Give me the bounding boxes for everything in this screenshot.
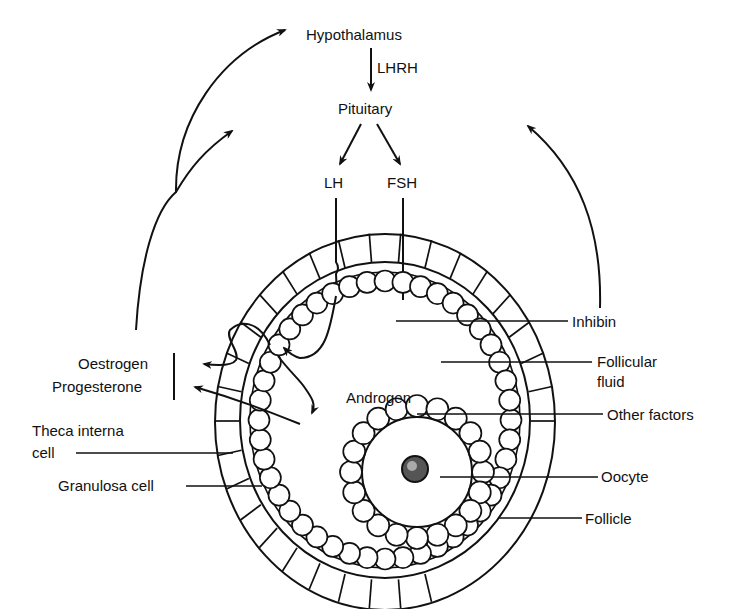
theca-cell-divider xyxy=(309,563,320,589)
cumulus-cell xyxy=(406,527,428,549)
granulosa-cell xyxy=(501,410,522,431)
theca-cell-divider xyxy=(369,579,371,608)
lhrh-label: LHRH xyxy=(377,59,418,76)
theca-cell-divider xyxy=(338,240,345,268)
follicle-endocrine-diagram: Hypothalamus LHRH Pituitary LH FSH Oestr… xyxy=(0,0,746,609)
theca-cell-divider xyxy=(283,271,297,294)
feedback-arrow-pituitary xyxy=(176,131,232,192)
theca-cell-divider xyxy=(529,386,553,391)
other-factors-label: Other factors xyxy=(607,406,694,423)
theca-cell-divider xyxy=(226,478,248,488)
fsh-arrow xyxy=(377,124,400,164)
theca-cell-divider xyxy=(240,505,260,520)
progesterone-label: Progesterone xyxy=(52,378,142,395)
theca-cell-divider xyxy=(369,234,371,263)
androgen-arrow xyxy=(278,356,314,413)
cumulus-cell xyxy=(340,461,362,483)
hypothalamus-label: Hypothalamus xyxy=(306,26,402,43)
theca-cell-divider xyxy=(259,528,277,548)
progesterone-arrow xyxy=(195,387,300,424)
theca-label-line2: cell xyxy=(32,444,55,461)
oocyte-label: Oocyte xyxy=(601,468,649,485)
theca-cell-divider xyxy=(283,548,297,571)
theca-cell-divider xyxy=(226,353,248,363)
nucleus-texture xyxy=(407,461,417,471)
fsh-label: FSH xyxy=(387,174,417,191)
granulosa-cell xyxy=(249,410,270,431)
theca-cell-divider xyxy=(425,574,432,602)
diagram-svg: Hypothalamus LHRH Pituitary LH FSH Oestr… xyxy=(0,0,746,609)
theca-cell-divider xyxy=(473,271,487,294)
cumulus-cell xyxy=(469,441,491,463)
theca-cell-divider xyxy=(425,240,432,268)
follicular-label-line2: fluid xyxy=(597,373,625,390)
cumulus-cell xyxy=(426,524,448,546)
theca-cell-divider xyxy=(398,579,400,608)
granulosa-cell xyxy=(499,429,520,450)
theca-cell-divider xyxy=(218,386,242,391)
granulosa-cell xyxy=(499,390,520,411)
theca-cell-divider xyxy=(398,234,400,263)
theca-label-line1: Theca interna xyxy=(32,422,124,439)
theca-cell-divider xyxy=(509,322,529,337)
cumulus-cell xyxy=(472,461,494,483)
inhibin-feedback-arrow xyxy=(528,126,600,308)
theca-cell-divider xyxy=(450,253,461,279)
theca-cell-divider xyxy=(338,574,345,602)
follicle-label: Follicle xyxy=(585,510,632,527)
granulosa-cell xyxy=(495,370,516,391)
theca-cell-divider xyxy=(309,253,320,279)
pituitary-label: Pituitary xyxy=(338,100,393,117)
follicle xyxy=(215,234,555,609)
granulosa-cell xyxy=(254,449,275,470)
feedback-arrow-hypothalamus xyxy=(136,30,285,330)
cumulus-cell xyxy=(343,481,365,503)
oestrogen-label: Oestrogen xyxy=(78,355,148,372)
granulosa-cell xyxy=(250,429,271,450)
granulosa-label: Granulosa cell xyxy=(58,477,154,494)
theca-cell-divider xyxy=(493,294,511,314)
follicular-label-line1: Follicular xyxy=(597,353,657,370)
lh-arrow xyxy=(340,124,361,164)
inhibin-label: Inhibin xyxy=(572,313,616,330)
theca-cell-divider xyxy=(259,294,277,314)
androgen-label: Androgen xyxy=(346,389,411,406)
lh-label: LH xyxy=(324,174,343,191)
